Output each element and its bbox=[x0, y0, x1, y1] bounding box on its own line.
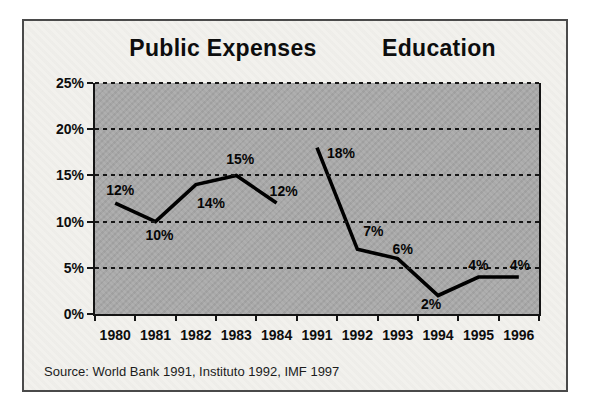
x-axis-tick bbox=[377, 316, 379, 321]
page: Public Expenses Education 12%10%14%15%12… bbox=[0, 0, 592, 417]
y-axis-label-20%: 20% bbox=[24, 121, 84, 137]
x-axis-label-1984: 1984 bbox=[261, 327, 292, 343]
y-axis-label-0%: 0% bbox=[24, 306, 84, 322]
gridline-10% bbox=[95, 221, 539, 223]
x-axis-tick bbox=[538, 316, 540, 321]
x-axis-label-1995: 1995 bbox=[463, 327, 494, 343]
data-label-1980: 12% bbox=[106, 182, 134, 198]
gridline-25% bbox=[95, 82, 539, 84]
data-label-1983: 15% bbox=[226, 151, 254, 167]
x-axis-tick bbox=[417, 316, 419, 321]
x-axis-tick bbox=[336, 316, 338, 321]
x-axis-label-1983: 1983 bbox=[221, 327, 252, 343]
x-axis-tick bbox=[255, 316, 257, 321]
x-axis-label-1991: 1991 bbox=[301, 327, 332, 343]
x-axis-label-1982: 1982 bbox=[180, 327, 211, 343]
y-axis-label-10%: 10% bbox=[24, 214, 84, 230]
y-axis-tick bbox=[87, 221, 93, 223]
x-axis-label-1992: 1992 bbox=[342, 327, 373, 343]
x-axis-tick bbox=[94, 316, 96, 321]
data-label-1994: 2% bbox=[421, 296, 441, 312]
x-axis-label-1981: 1981 bbox=[140, 327, 171, 343]
chart-frame: Public Expenses Education 12%10%14%15%12… bbox=[22, 19, 568, 392]
x-axis-tick bbox=[296, 316, 298, 321]
chart-title-education: Education bbox=[382, 36, 496, 61]
plot-area: 12%10%14%15%12%18%7%6%2%4%4% bbox=[95, 83, 539, 314]
y-axis-tick bbox=[87, 128, 93, 130]
x-axis-label-1996: 1996 bbox=[503, 327, 534, 343]
x-axis-label-1994: 1994 bbox=[423, 327, 454, 343]
data-label-1984: 12% bbox=[270, 183, 298, 199]
x-axis-tick bbox=[215, 316, 217, 321]
y-axis-label-5%: 5% bbox=[24, 260, 84, 276]
y-axis-line bbox=[93, 83, 95, 316]
data-label-1995: 4% bbox=[468, 257, 488, 273]
y-axis-tick bbox=[87, 174, 93, 176]
x-axis-tick bbox=[498, 316, 500, 321]
gridline-20% bbox=[95, 128, 539, 130]
data-label-1993: 6% bbox=[393, 241, 413, 257]
data-label-1991: 18% bbox=[327, 145, 355, 161]
source-note: Source: World Bank 1991, Instituto 1992,… bbox=[44, 364, 339, 379]
y-axis-tick bbox=[87, 267, 93, 269]
x-axis-label-1993: 1993 bbox=[382, 327, 413, 343]
x-axis-line bbox=[93, 314, 541, 316]
line-series-canvas bbox=[95, 83, 539, 314]
series-line-public-expenses bbox=[115, 175, 276, 221]
y-axis-label-25%: 25% bbox=[24, 75, 84, 91]
gridline-15% bbox=[95, 174, 539, 176]
data-label-1982: 14% bbox=[197, 195, 225, 211]
data-label-1992: 7% bbox=[363, 223, 383, 239]
x-axis-tick bbox=[175, 316, 177, 321]
chart-title-public-expenses: Public Expenses bbox=[129, 36, 316, 61]
data-label-1981: 10% bbox=[146, 227, 174, 243]
x-axis-tick bbox=[134, 316, 136, 321]
y-axis-tick bbox=[87, 82, 93, 84]
x-axis-tick bbox=[457, 316, 459, 321]
plot-right-border bbox=[539, 83, 541, 316]
x-axis-label-1980: 1980 bbox=[100, 327, 131, 343]
y-axis-tick bbox=[87, 313, 93, 315]
data-label-1996: 4% bbox=[510, 257, 530, 273]
y-axis-label-15%: 15% bbox=[24, 167, 84, 183]
